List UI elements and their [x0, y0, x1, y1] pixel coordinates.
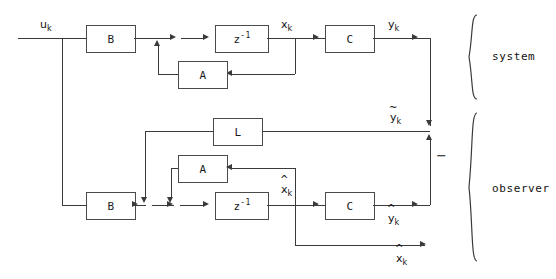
signal-line-a-up-system — [158, 46, 159, 74]
arrowhead-sum-observer-a-in — [167, 197, 173, 203]
signal-line-sum-system-to-z — [181, 38, 203, 39]
arrowhead-x-to-c-system — [313, 34, 319, 40]
signal-line-x-hat — [267, 205, 333, 206]
signal-line-a-observer-down — [171, 168, 172, 199]
section-label-system: system — [492, 50, 535, 63]
brace-system — [466, 14, 480, 100]
label-x-k: xk — [281, 18, 292, 31]
block-b-observer[interactable]: B — [86, 192, 136, 220]
arrowhead-sum-error-top — [426, 120, 432, 126]
brace-observer — [466, 112, 480, 262]
signal-line-x-hat-to-a — [232, 168, 295, 169]
signal-line-b-to-sum-system — [134, 38, 170, 39]
block-z-inverse-observer[interactable]: z-1 — [215, 192, 269, 220]
signal-line-a-out-system — [158, 74, 178, 75]
arrowhead-sum-error-bottom — [426, 134, 432, 140]
block-a-system[interactable]: A — [178, 61, 228, 89]
block-c-observer[interactable]: C — [325, 192, 375, 220]
label-y-tilde-k: ~yk — [390, 111, 401, 124]
block-b-system[interactable]: B — [86, 25, 136, 53]
block-label-a-observer: A — [200, 163, 207, 176]
block-label-a-system: A — [200, 69, 207, 82]
arrowhead-x-hat-to-c — [313, 201, 319, 207]
arrowhead-y-hat — [412, 201, 418, 207]
arrowhead-sum-system-feedback — [154, 40, 160, 46]
block-label-c-system: C — [347, 33, 354, 46]
block-label-b-observer: B — [108, 200, 115, 213]
arrowhead-x-hat-output — [420, 241, 426, 247]
signal-line-x-feedback-to-a — [232, 74, 295, 75]
sign-minus-sum: − — [436, 148, 447, 163]
arrowhead-z-system-in — [203, 34, 209, 40]
signal-line-x-k — [267, 38, 333, 39]
signal-line-y-hat — [373, 205, 430, 206]
arrowhead-z-observer-in — [203, 201, 209, 207]
label-y-k: yk — [388, 18, 399, 31]
arrowhead-sum-observer-l-in — [141, 197, 147, 203]
signal-line-y-hat-up-to-sum — [430, 140, 431, 205]
block-label-z-observer: z-1 — [233, 200, 250, 213]
arrowhead-a-observer-in — [226, 164, 232, 170]
signal-line-x-feedback-vertical — [295, 38, 296, 74]
signal-line-a-observer-out — [171, 168, 178, 169]
block-z-inverse-system[interactable]: z-1 — [215, 25, 269, 53]
signal-line-sum2-to-z-observer — [180, 205, 203, 206]
signal-line-x-hat-output — [295, 245, 425, 246]
arrowhead-sum-observer-in-1 — [132, 201, 138, 207]
block-c-system[interactable]: C — [325, 25, 375, 53]
observer-block-diagram: uk B z-1 xk A C yk — [0, 0, 556, 279]
label-y-hat-k: ^yk — [388, 212, 399, 225]
block-label-b-system: B — [108, 33, 115, 46]
label-x-hat-k-output: ^xk — [396, 252, 407, 265]
block-label-l: L — [235, 126, 242, 139]
block-label-c-observer: C — [347, 200, 354, 213]
label-u-k: uk — [40, 18, 52, 31]
signal-line-x-hat-up-to-a — [295, 168, 296, 205]
block-label-z-system: z-1 — [233, 33, 250, 46]
signal-line-y-to-corner — [418, 38, 430, 39]
label-x-hat-k: ^xk — [281, 183, 292, 196]
signal-line-u-branch-vertical — [62, 38, 63, 205]
section-label-observer: observer — [492, 182, 550, 195]
signal-line-y-tilde — [245, 131, 430, 132]
arrowhead-sum-system-in — [170, 34, 176, 40]
block-a-observer[interactable]: A — [178, 155, 228, 183]
signal-line-l-out — [145, 131, 213, 132]
signal-line-l-down — [145, 131, 146, 199]
signal-line-y-down-to-sum — [430, 38, 431, 126]
signal-line-x-hat-down — [295, 205, 296, 245]
block-l-observer[interactable]: L — [213, 118, 263, 146]
